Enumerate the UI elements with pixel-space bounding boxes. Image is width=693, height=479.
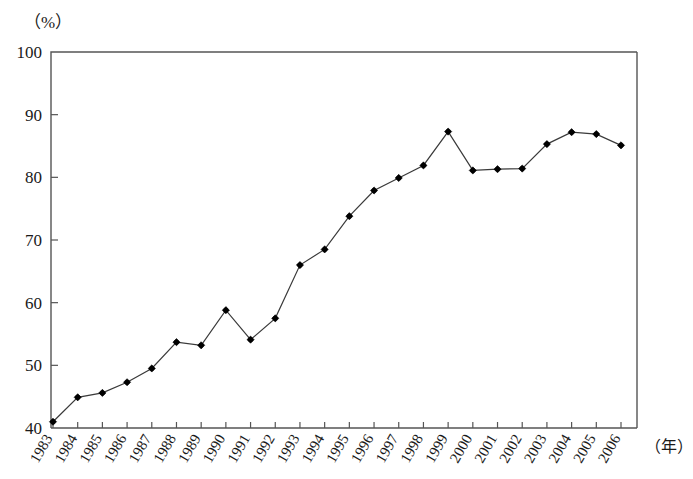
y-tick-label: 70 bbox=[25, 231, 42, 250]
x-tick-label: 1999 bbox=[422, 432, 451, 466]
data-point-marker-core bbox=[619, 143, 623, 147]
data-point-markers bbox=[49, 128, 624, 425]
line-chart: （%） 100908070605040 19831984198519861987… bbox=[0, 0, 693, 479]
y-axis-unit-label: （%） bbox=[24, 13, 72, 32]
data-point-marker-core bbox=[75, 395, 79, 399]
data-point-marker-core bbox=[520, 166, 524, 170]
x-tick-label: 1995 bbox=[323, 432, 352, 466]
data-point-marker-core bbox=[224, 308, 228, 312]
x-axis-unit-group: （年） bbox=[645, 438, 693, 455]
x-tick-label: 1993 bbox=[274, 432, 303, 466]
y-axis-unit-group: （%） bbox=[24, 13, 72, 32]
x-tick-label: 1986 bbox=[101, 431, 130, 465]
y-tick-label: 50 bbox=[25, 356, 42, 375]
y-tick-label: 90 bbox=[25, 106, 42, 125]
data-point-marker-core bbox=[51, 420, 55, 424]
x-axis-unit-label: （年） bbox=[645, 438, 693, 455]
x-tick-label: 2002 bbox=[496, 432, 525, 466]
x-tick-label: 1996 bbox=[348, 431, 377, 465]
x-tick-label: 1992 bbox=[249, 432, 278, 466]
x-tick-label: 2006 bbox=[595, 431, 624, 465]
data-point-marker-core bbox=[322, 247, 326, 251]
x-axis-labels: 1983198419851986198719881989199019911992… bbox=[27, 431, 624, 465]
x-tick-label: 1998 bbox=[397, 432, 426, 466]
data-point-marker-core bbox=[594, 132, 598, 136]
x-tick-label: 2005 bbox=[570, 432, 599, 466]
data-point-marker-core bbox=[471, 168, 475, 172]
data-point-marker-core bbox=[421, 163, 425, 167]
data-point-marker-core bbox=[446, 129, 450, 133]
x-tick-label: 1997 bbox=[372, 431, 401, 465]
data-series-line bbox=[53, 132, 621, 422]
x-axis-ticks bbox=[53, 422, 621, 428]
x-tick-label: 1989 bbox=[175, 432, 204, 466]
data-point-marker-core bbox=[372, 188, 376, 192]
data-point-marker-core bbox=[545, 142, 549, 146]
x-tick-label: 1990 bbox=[200, 432, 229, 466]
data-point-marker-core bbox=[174, 340, 178, 344]
axis-frame bbox=[51, 52, 637, 428]
x-tick-label: 2001 bbox=[471, 432, 500, 466]
x-tick-label: 1991 bbox=[224, 432, 253, 466]
data-point-marker-core bbox=[397, 176, 401, 180]
data-point-marker-core bbox=[273, 316, 277, 320]
x-tick-label: 2003 bbox=[521, 432, 550, 466]
data-point-marker-core bbox=[347, 214, 351, 218]
x-tick-label: 1984 bbox=[51, 431, 80, 465]
x-tick-label: 1988 bbox=[150, 432, 179, 466]
chart-canvas: （%） 100908070605040 19831984198519861987… bbox=[0, 0, 693, 479]
data-point-marker-core bbox=[150, 366, 154, 370]
data-point-marker-core bbox=[569, 130, 573, 134]
x-tick-label: 1994 bbox=[298, 431, 327, 465]
data-point-marker-core bbox=[199, 343, 203, 347]
y-axis-ticks: 100908070605040 bbox=[17, 43, 59, 438]
y-tick-label: 100 bbox=[17, 43, 43, 62]
data-point-marker-core bbox=[495, 167, 499, 171]
data-point-marker-core bbox=[298, 263, 302, 267]
data-point-marker-core bbox=[125, 380, 129, 384]
y-tick-label: 60 bbox=[25, 294, 42, 313]
data-point-marker-core bbox=[248, 337, 252, 341]
y-tick-label: 80 bbox=[25, 168, 42, 187]
x-tick-label: 1985 bbox=[76, 432, 105, 466]
x-tick-label: 1987 bbox=[126, 431, 155, 465]
x-tick-label: 2000 bbox=[447, 432, 476, 466]
x-tick-label: 2004 bbox=[545, 431, 574, 465]
data-point-marker-core bbox=[100, 391, 104, 395]
